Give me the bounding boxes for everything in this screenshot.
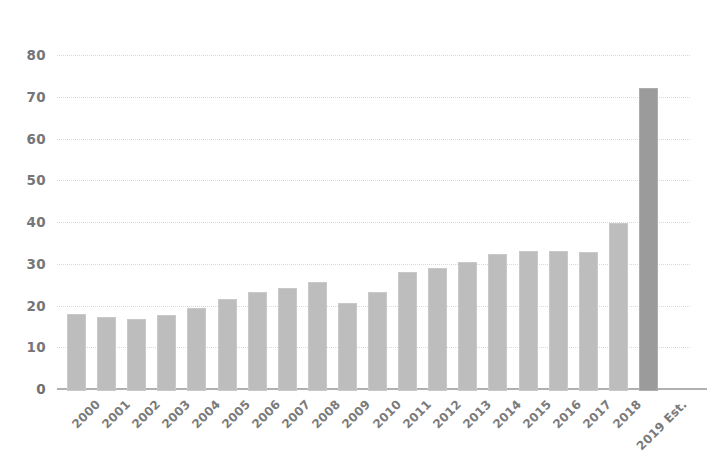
bar-group[interactable]: 2004 (187, 57, 206, 391)
x-axis-tick-label: 2000 (69, 398, 102, 431)
x-axis-tick-label: 2001 (100, 398, 133, 431)
y-axis-tick-label: 80 (26, 49, 46, 63)
bar[interactable] (519, 251, 538, 391)
bar-group[interactable]: 2011 (398, 57, 417, 391)
x-axis-tick-label: 2007 (280, 398, 313, 431)
bar-group[interactable]: 2017 (579, 57, 598, 391)
bar-group[interactable]: 2013 (458, 57, 477, 391)
bar[interactable] (549, 251, 568, 391)
x-axis-tick-label: 2008 (310, 398, 343, 431)
x-axis-tick-label: 2012 (431, 398, 464, 431)
bar[interactable] (67, 314, 86, 391)
bar[interactable] (639, 88, 658, 391)
bar[interactable] (338, 303, 357, 391)
bar[interactable] (428, 268, 447, 391)
x-axis-tick-label: 2006 (250, 398, 283, 431)
bar[interactable] (308, 282, 327, 391)
bar-group[interactable]: 2005 (218, 57, 237, 391)
x-axis-tick-label: 2011 (401, 398, 434, 431)
y-axis-tick-label: 40 (26, 216, 46, 230)
bar-group[interactable]: 2008 (308, 57, 327, 391)
x-axis-tick-label: 2002 (130, 398, 163, 431)
bar-group[interactable]: 2003 (157, 57, 176, 391)
bar-group[interactable]: 2001 (97, 57, 116, 391)
bar[interactable] (398, 272, 417, 391)
bar-group[interactable]: 2007 (278, 57, 297, 391)
x-axis-tick-label: 2003 (160, 398, 193, 431)
x-axis-tick-label: 2018 (611, 398, 644, 431)
bar[interactable] (127, 319, 146, 391)
y-axis-tick-label: 30 (26, 257, 46, 271)
bar-group[interactable]: 2018 (609, 57, 628, 391)
y-axis-tick-label: 50 (26, 174, 46, 188)
x-axis-tick-label: 2016 (551, 398, 584, 431)
bar[interactable] (579, 252, 598, 391)
bar-group[interactable]: 2019 Est. (639, 57, 658, 391)
bar[interactable] (368, 292, 387, 391)
bar-group[interactable]: 2014 (488, 57, 507, 391)
bar-group[interactable]: 2002 (127, 57, 146, 391)
x-axis-tick-label: 2017 (581, 398, 614, 431)
bar[interactable] (97, 317, 116, 391)
x-axis-tick-label: 2009 (340, 398, 373, 431)
bar-group[interactable]: 2012 (428, 57, 447, 391)
bar[interactable] (218, 299, 237, 391)
y-axis-tick-label: 70 (26, 90, 46, 104)
bar-group[interactable]: 2016 (549, 57, 568, 391)
bar[interactable] (187, 308, 206, 391)
bar[interactable] (609, 223, 628, 391)
x-axis-tick-label: 2013 (461, 398, 494, 431)
bar[interactable] (488, 254, 507, 391)
bar-series: 2000200120022003200420052006200720082009… (57, 57, 712, 391)
bar-group[interactable]: 2006 (248, 57, 267, 391)
y-axis-tick-label: 10 (26, 341, 46, 355)
bar-group[interactable]: 2015 (519, 57, 538, 391)
bar[interactable] (157, 315, 176, 391)
x-axis-tick-label: 2010 (370, 398, 403, 431)
x-axis-tick-label: 2004 (190, 398, 223, 431)
x-axis-tick-label: 2015 (521, 398, 554, 431)
y-axis-tick-label: 0 (36, 383, 46, 397)
bar-group[interactable]: 2009 (338, 57, 357, 391)
bar[interactable] (278, 288, 297, 391)
y-axis-tick-label: 20 (26, 299, 46, 313)
bar[interactable] (248, 292, 267, 391)
bar-group[interactable]: 2000 (67, 57, 86, 391)
y-axis-tick-label: 60 (26, 132, 46, 146)
bar-chart: 80706050403020100 2000200120022003200420… (0, 0, 720, 471)
bar-group[interactable]: 2010 (368, 57, 387, 391)
x-axis-tick-label: 2005 (220, 398, 253, 431)
chart-title (0, 0, 720, 1)
plot-area: 80706050403020100 2000200120022003200420… (57, 57, 712, 391)
bar[interactable] (458, 262, 477, 391)
x-axis-tick-label: 2014 (491, 398, 524, 431)
